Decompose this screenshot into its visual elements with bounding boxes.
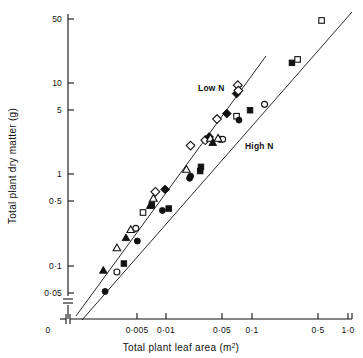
data-point-filled-triangle	[100, 266, 108, 273]
data-point-filled-circle	[134, 238, 140, 244]
x-tick-label: 1·0	[342, 325, 355, 335]
y-tick-label: 1	[57, 169, 62, 179]
y-tick-label: 5	[57, 105, 62, 115]
data-point-filled-circle	[159, 207, 165, 213]
y-tick-label: 50	[52, 14, 62, 24]
data-point-open-circle	[114, 269, 120, 275]
data-point-open-diamond	[213, 115, 222, 124]
data-point-open-square	[295, 57, 301, 63]
data-point-open-square	[140, 210, 146, 216]
x-tick-label: 0·005	[126, 325, 149, 335]
data-point-open-triangle	[113, 244, 121, 251]
data-point-filled-diamond	[161, 185, 170, 194]
x-tick-label: 0·05	[213, 325, 231, 335]
high-n-label: High N	[245, 141, 274, 151]
data-marker-group	[100, 18, 325, 295]
data-point-filled-square	[121, 261, 127, 267]
x-tick-group: 00·0050·010·050·10·51·0	[46, 313, 355, 335]
high-n-regression	[82, 12, 352, 320]
data-point-open-circle	[133, 225, 139, 231]
data-point-filled-square	[247, 107, 253, 113]
x-tick-label: 0·5	[312, 325, 325, 335]
x-tick-label: 0·01	[157, 325, 175, 335]
low-n-label: Low N	[198, 83, 225, 93]
x-tick-label: 0	[46, 325, 51, 335]
data-point-filled-circle	[236, 117, 242, 123]
data-point-filled-square	[149, 202, 155, 208]
data-point-open-diamond	[186, 141, 195, 150]
x-tick-label: 0·1	[246, 325, 259, 335]
data-point-filled-circle	[188, 173, 194, 179]
scatter-plot-canvas: 5010510·50·10·05 00·0050·010·050·10·51·0…	[0, 0, 363, 358]
y-tick-label: 0·05	[44, 288, 62, 298]
figure-root: 5010510·50·10·05 00·0050·010·050·10·51·0…	[0, 0, 363, 358]
data-point-open-square	[319, 18, 325, 24]
y-tick-label: 0·1	[49, 261, 62, 271]
data-point-filled-square	[198, 164, 204, 170]
data-point-open-circle	[262, 101, 268, 107]
data-point-filled-diamond	[222, 109, 231, 118]
data-point-filled-square	[166, 206, 172, 212]
y-tick-group: 5010510·50·10·05	[44, 14, 74, 298]
x-axis-title: Total plant leaf area (m2)	[123, 342, 239, 354]
data-point-filled-triangle	[122, 234, 130, 241]
y-tick-label: 10	[52, 78, 62, 88]
y-axis-title: Total plant dry matter (g)	[7, 108, 18, 224]
y-axis-break-icon	[63, 299, 73, 303]
data-point-filled-square	[289, 60, 295, 66]
data-point-filled-circle	[102, 288, 108, 294]
y-tick-label: 0·5	[49, 196, 62, 206]
data-point-open-diamond	[151, 187, 160, 196]
